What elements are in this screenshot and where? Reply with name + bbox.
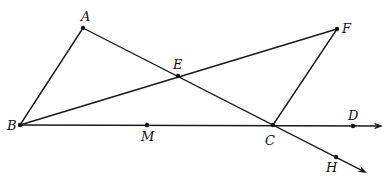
points-group: [18, 26, 355, 159]
label-h: H: [325, 160, 338, 175]
point-f: [335, 27, 339, 31]
point-m: [145, 123, 149, 127]
lines-group: [20, 28, 383, 173]
point-e: [176, 74, 180, 78]
point-d: [351, 124, 355, 128]
label-f: F: [341, 21, 352, 36]
label-e: E: [172, 57, 183, 72]
ray-bd: [20, 125, 376, 126]
point-c: [271, 123, 275, 127]
label-c: C: [265, 133, 275, 148]
label-d: D: [347, 108, 359, 123]
segment-ab: [20, 28, 83, 125]
geometry-diagram: AEFBMCDH: [0, 0, 392, 185]
point-b: [18, 123, 22, 127]
segment-fc: [273, 29, 337, 125]
point-h: [334, 155, 338, 159]
ray-ah: [83, 28, 361, 170]
label-b: B: [6, 118, 17, 133]
point-a: [81, 26, 85, 30]
label-a: A: [80, 9, 90, 24]
labels-group: AEFBMCDH: [6, 9, 359, 175]
label-m: M: [140, 129, 155, 144]
